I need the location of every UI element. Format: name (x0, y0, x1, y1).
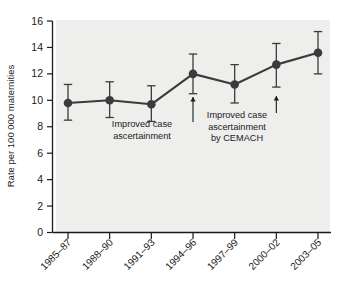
annotation-text-line-1: ascertainment (113, 131, 171, 141)
plot-area-background (56, 20, 330, 232)
y-axis-ticks (47, 21, 53, 233)
annotation-text-line-2: by CEMACH (211, 133, 263, 143)
annotation-text-line-0: Improved case (207, 110, 267, 120)
y-tick-label-0: 0 (37, 226, 43, 238)
x-tick-label-5: 2000–02 (246, 236, 282, 272)
y-axis-tick-labels: 0246810121416 (31, 15, 43, 239)
x-tick-label-4: 1997–99 (205, 236, 241, 272)
chart-figure: 0246810121416 Rate per 100 000 materniti… (0, 0, 346, 285)
x-tick-label-3: 1994–96 (163, 236, 199, 272)
y-tick-label-10: 10 (31, 94, 43, 106)
x-axis-tick-labels: 1985–871988–901991–931994–961997–992000–… (38, 236, 324, 272)
data-point-6 (314, 48, 323, 57)
data-point-3 (189, 70, 198, 79)
chart-svg: 0246810121416 Rate per 100 000 materniti… (0, 0, 346, 285)
y-tick-label-2: 2 (37, 200, 43, 212)
data-point-2 (147, 100, 156, 109)
data-point-4 (230, 80, 239, 89)
data-point-1 (105, 96, 114, 105)
y-tick-label-14: 14 (31, 41, 43, 53)
x-tick-label-1: 1988–90 (80, 236, 116, 272)
x-tick-label-6: 2003–05 (288, 236, 324, 272)
y-tick-label-12: 12 (31, 67, 43, 79)
x-tick-label-0: 1985–87 (38, 236, 74, 272)
data-point-5 (272, 60, 281, 69)
y-tick-label-8: 8 (37, 120, 43, 132)
x-tick-label-2: 1991–93 (121, 236, 157, 272)
y-tick-label-16: 16 (31, 15, 43, 27)
y-tick-label-6: 6 (37, 147, 43, 159)
y-tick-label-4: 4 (37, 173, 43, 185)
y-axis-title: Rate per 100 000 maternities (5, 64, 16, 187)
annotation-text-line-0: Improved case (112, 119, 172, 129)
annotation-text-line-1: ascertainment (208, 122, 266, 132)
data-point-0 (64, 99, 73, 108)
